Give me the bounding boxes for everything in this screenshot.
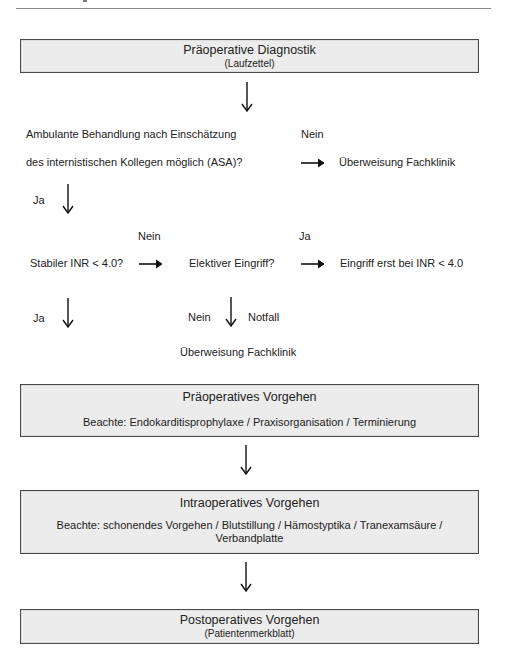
result-referral-clinic: Überweisung Fachklinik: [180, 346, 296, 359]
box-title: Präoperative Diagnostik: [21, 43, 478, 58]
arrow-down-icon: [241, 82, 253, 112]
header-mark: [83, 0, 87, 2]
label-ja: Ja: [33, 312, 45, 325]
box-title: Präoperatives Vorgehen: [21, 390, 478, 405]
label-nein: Nein: [188, 311, 211, 324]
box-intraoperative-procedure: Intraoperatives Vorgehen Beachte: schone…: [20, 490, 479, 554]
box-postoperative-procedure: Postoperatives Vorgehen (Patientenmerkbl…: [20, 609, 479, 644]
label-ja: Ja: [33, 194, 45, 207]
box-subtitle: (Patientenmerkblatt): [21, 628, 478, 639]
label-notfall: Notfall: [248, 311, 279, 324]
box-preoperative-procedure: Präoperatives Vorgehen Beachte: Endokard…: [20, 384, 479, 437]
question-stable-inr: Stabiler INR < 4.0?: [30, 257, 123, 270]
label-ja: Ja: [299, 230, 311, 243]
header-rule: [16, 8, 491, 9]
box-title: Postoperatives Vorgehen: [21, 613, 478, 628]
result-referral-clinic: Überweisung Fachklinik: [339, 156, 455, 169]
result-procedure-inr: Eingriff erst bei INR < 4.0: [340, 257, 463, 270]
box-note: Beachte: Endokarditisprophylaxe / Praxis…: [21, 416, 478, 429]
label-nein: Nein: [138, 230, 161, 243]
question-elective-procedure: Elektiver Eingriff?: [189, 257, 274, 270]
label-nein: Nein: [301, 128, 324, 141]
box-preoperative-diagnostics: Präoperative Diagnostik (Laufzettel): [20, 39, 479, 73]
arrow-right-icon: [139, 259, 163, 269]
arrow-down-icon: [240, 445, 252, 475]
arrow-down-icon: [225, 297, 237, 327]
arrow-down-icon: [240, 562, 252, 592]
arrow-right-icon: [301, 158, 325, 168]
arrow-right-icon: [301, 259, 325, 269]
question-ambulatory-line2: des internistischen Kollegen möglich (AS…: [26, 156, 242, 169]
arrow-down-icon: [62, 298, 74, 328]
box-title: Intraoperatives Vorgehen: [21, 496, 478, 511]
arrow-down-icon: [62, 184, 74, 214]
box-subtitle: (Laufzettel): [21, 58, 478, 69]
box-note: Beachte: schonendes Vorgehen / Blutstill…: [21, 519, 478, 532]
box-note: Verbandplatte: [21, 532, 478, 545]
question-ambulatory-line1: Ambulante Behandlung nach Einschätzung: [26, 128, 236, 141]
